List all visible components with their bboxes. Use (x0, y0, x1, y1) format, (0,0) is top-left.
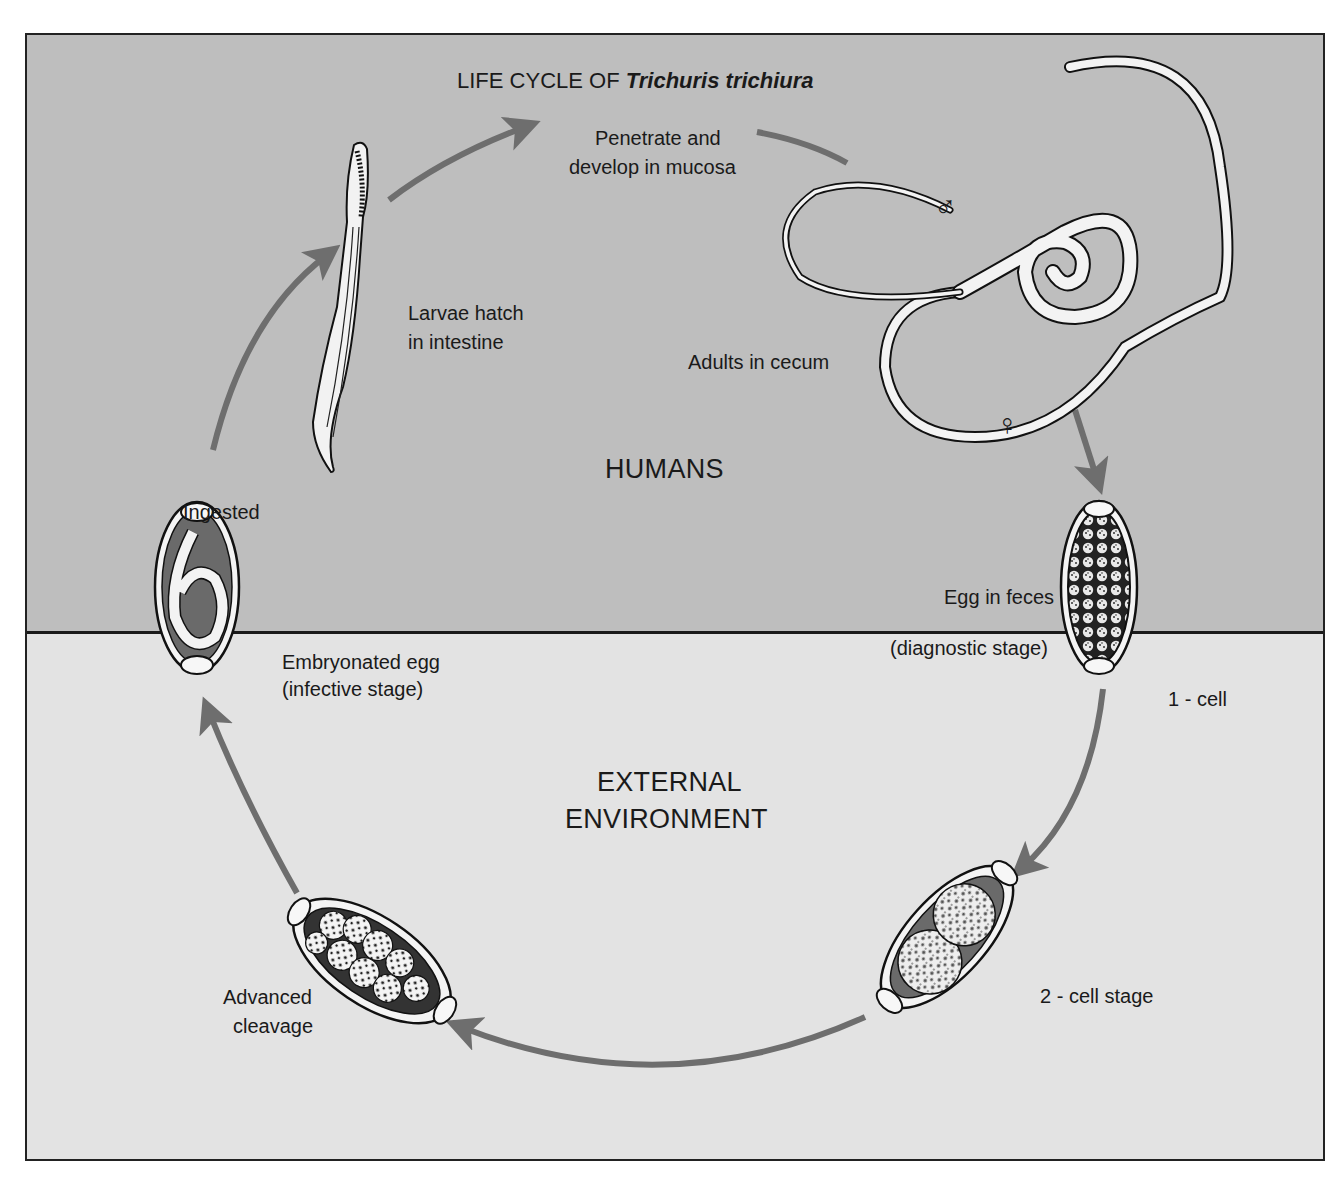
label-infective-stage: (infective stage) (282, 674, 423, 704)
arrow-mucosa-to-adults (757, 132, 847, 163)
arrow-larvae-to-mucosa (389, 127, 525, 200)
larva-illustration (313, 143, 368, 472)
label-advanced: Advanced (223, 982, 312, 1012)
female-symbol-icon: ♀ (996, 410, 1019, 440)
label-embryonated-egg: Embryonated egg (282, 647, 440, 677)
egg-embryonated-illustration (155, 502, 239, 674)
arrow-twocell-to-advanced (461, 1017, 865, 1065)
zone-label-external-line1: EXTERNAL (597, 765, 742, 799)
label-diagnostic-stage: (diagnostic stage) (890, 633, 1048, 663)
arrow-ingested-to-larvae (213, 255, 327, 450)
label-larvae-line2: in intestine (408, 327, 504, 357)
diagram-title: LIFE CYCLE OF Trichuris trichiura (457, 66, 814, 96)
label-cleavage: cleavage (233, 1011, 313, 1041)
label-penetrate-line2: develop in mucosa (569, 152, 736, 182)
arrow-advanced-to-embryonated (209, 712, 297, 893)
arrow-egg-to-twocell (1023, 689, 1103, 867)
arrow-adults-to-egg (1075, 410, 1097, 479)
zone-label-external-line2: ENVIRONMENT (565, 802, 768, 836)
label-larvae-line1: Larvae hatch (408, 298, 524, 328)
label-one-cell: 1 - cell (1168, 684, 1227, 714)
adult-worms-illustration (786, 61, 1228, 437)
label-egg-in-feces: Egg in feces (944, 582, 1054, 612)
male-symbol-icon: ♂ (934, 192, 957, 222)
label-two-cell-stage: 2 - cell stage (1040, 981, 1153, 1011)
zone-label-humans: HUMANS (605, 452, 724, 486)
egg-two-cell-illustration (854, 840, 1041, 1035)
egg-one-cell-illustration (1061, 501, 1137, 674)
label-penetrate-line1: Penetrate and (595, 123, 721, 153)
label-adults-in-cecum: Adults in cecum (688, 347, 829, 377)
label-ingested: Ingested (183, 497, 260, 527)
